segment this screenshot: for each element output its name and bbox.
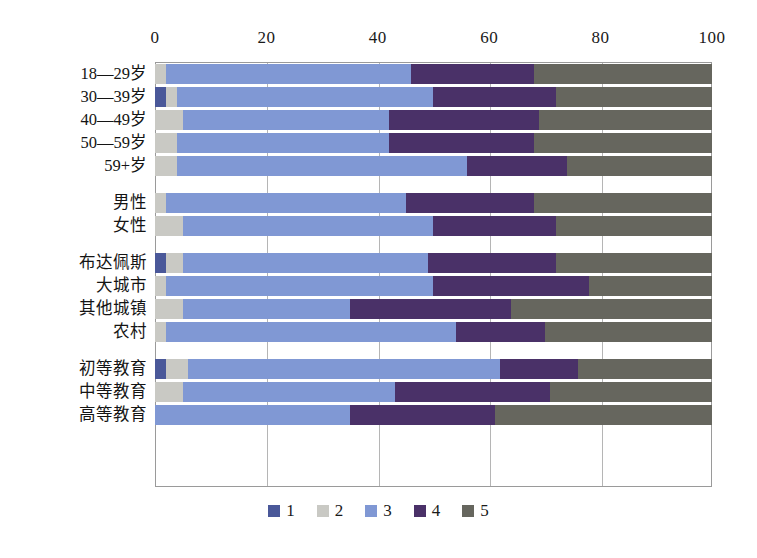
bar-segment-3[interactable]	[177, 87, 433, 107]
legend-label: 2	[335, 502, 344, 519]
bar-segment-3[interactable]	[166, 322, 456, 342]
legend-swatch-icon	[414, 505, 426, 517]
bar-segment-5[interactable]	[545, 322, 712, 342]
bar-segment-5[interactable]	[534, 193, 712, 213]
bar-segment-5[interactable]	[539, 110, 712, 130]
bar-segment-3[interactable]	[183, 253, 428, 273]
legend-swatch-icon	[365, 505, 377, 517]
legend-item[interactable]: 3	[365, 502, 392, 519]
bar-segment-2[interactable]	[155, 322, 166, 342]
bar-segment-4[interactable]	[389, 110, 539, 130]
bar-row[interactable]	[155, 156, 712, 176]
bar-segment-2[interactable]	[155, 299, 183, 319]
bar-segment-1[interactable]	[155, 87, 166, 107]
category-label: 女性	[113, 218, 147, 235]
legend-label: 1	[286, 502, 295, 519]
bar-row[interactable]	[155, 322, 712, 342]
legend-item[interactable]: 1	[268, 502, 295, 519]
bar-segment-4[interactable]	[500, 359, 578, 379]
bar-row[interactable]	[155, 64, 712, 84]
bar-segment-4[interactable]	[433, 216, 556, 236]
bar-segment-2[interactable]	[155, 382, 183, 402]
bar-row[interactable]	[155, 133, 712, 153]
bar-segment-2[interactable]	[155, 193, 166, 213]
bar-segment-1[interactable]	[155, 253, 166, 273]
bar-segment-3[interactable]	[188, 359, 500, 379]
bar-segment-2[interactable]	[155, 156, 177, 176]
bar-segment-3[interactable]	[183, 110, 389, 130]
bar-segment-5[interactable]	[567, 156, 712, 176]
bar-segment-2[interactable]	[166, 87, 177, 107]
category-label: 30—39岁	[81, 89, 148, 106]
bar-row[interactable]	[155, 359, 712, 379]
bar-segment-3[interactable]	[166, 193, 406, 213]
bar-segment-4[interactable]	[467, 156, 567, 176]
bar-segment-5[interactable]	[495, 405, 712, 425]
bar-segment-5[interactable]	[556, 253, 712, 273]
bar-segment-2[interactable]	[155, 64, 166, 84]
bar-row[interactable]	[155, 193, 712, 213]
chart-legend: 12345	[0, 502, 757, 519]
legend-item[interactable]: 5	[462, 502, 489, 519]
bar-row[interactable]	[155, 405, 712, 425]
bar-segment-4[interactable]	[350, 405, 495, 425]
bar-segment-5[interactable]	[550, 382, 712, 402]
axis-tick-label: 40	[369, 28, 387, 48]
category-label: 40—49岁	[81, 112, 148, 129]
bar-row[interactable]	[155, 253, 712, 273]
bar-segment-3[interactable]	[155, 405, 350, 425]
bar-segment-5[interactable]	[534, 64, 712, 84]
category-label: 59+岁	[104, 158, 147, 175]
legend-label: 4	[432, 502, 441, 519]
bar-segment-4[interactable]	[406, 193, 534, 213]
legend-item[interactable]: 4	[414, 502, 441, 519]
category-label: 高等教育	[79, 407, 147, 424]
bar-row[interactable]	[155, 216, 712, 236]
bar-segment-4[interactable]	[433, 276, 589, 296]
bar-segment-4[interactable]	[395, 382, 551, 402]
legend-label: 3	[383, 502, 392, 519]
category-labels: 18—29岁30—39岁40—49岁50—59岁59+岁男性女性布达佩斯大城市其…	[0, 62, 150, 487]
bar-segment-3[interactable]	[166, 64, 411, 84]
bar-segment-2[interactable]	[166, 253, 183, 273]
bar-segment-5[interactable]	[589, 276, 712, 296]
category-label: 布达佩斯	[79, 255, 147, 272]
category-label: 农村	[113, 324, 147, 341]
bar-row[interactable]	[155, 110, 712, 130]
bar-segment-3[interactable]	[177, 156, 467, 176]
bar-segment-4[interactable]	[350, 299, 512, 319]
bar-segment-2[interactable]	[166, 359, 188, 379]
bar-segment-3[interactable]	[177, 133, 389, 153]
bar-segment-2[interactable]	[155, 216, 183, 236]
bar-segment-2[interactable]	[155, 276, 166, 296]
axis-tick-label: 60	[480, 28, 498, 48]
legend-item[interactable]: 2	[317, 502, 344, 519]
bar-segment-4[interactable]	[411, 64, 534, 84]
bar-segment-4[interactable]	[433, 87, 556, 107]
bar-segment-5[interactable]	[511, 299, 712, 319]
bar-segment-4[interactable]	[428, 253, 556, 273]
bar-segment-1[interactable]	[155, 359, 166, 379]
bar-segment-5[interactable]	[534, 133, 712, 153]
bar-row[interactable]	[155, 382, 712, 402]
bar-segment-3[interactable]	[183, 216, 434, 236]
stacked-bar-chart: 020406080100 18—29岁30—39岁40—49岁50—59岁59+…	[0, 0, 757, 558]
bar-row[interactable]	[155, 87, 712, 107]
category-label: 18—29岁	[81, 66, 148, 83]
bar-segment-3[interactable]	[166, 276, 433, 296]
bar-segment-2[interactable]	[155, 110, 183, 130]
bar-segment-3[interactable]	[183, 382, 395, 402]
x-axis-tick-labels: 020406080100	[0, 28, 757, 52]
bar-row[interactable]	[155, 299, 712, 319]
bar-segment-5[interactable]	[556, 87, 712, 107]
bar-segment-3[interactable]	[183, 299, 350, 319]
bar-segment-4[interactable]	[456, 322, 545, 342]
bar-segment-5[interactable]	[578, 359, 712, 379]
bar-segment-2[interactable]	[155, 133, 177, 153]
axis-tick-label: 20	[257, 28, 275, 48]
legend-swatch-icon	[462, 505, 474, 517]
bar-segment-4[interactable]	[389, 133, 534, 153]
bar-row[interactable]	[155, 276, 712, 296]
bar-segment-5[interactable]	[556, 216, 712, 236]
category-label: 其他城镇	[79, 301, 147, 318]
